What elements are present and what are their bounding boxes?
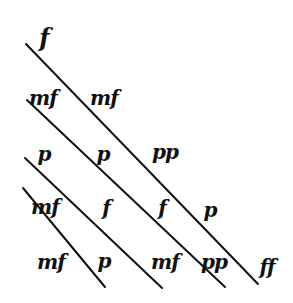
dynamics-diagram: f mf mf p p pp mf f f p mf p mf pp ff bbox=[0, 0, 293, 303]
dynamic-mark-mf: mf bbox=[29, 88, 57, 108]
dynamic-mark-f: f bbox=[102, 198, 110, 218]
dynamic-mark-p: p bbox=[38, 144, 51, 164]
dynamic-mark-ff: ff bbox=[259, 257, 274, 277]
dynamic-mark-f: f bbox=[158, 198, 166, 218]
dynamic-mark-p: p bbox=[97, 144, 110, 164]
dynamic-mark-p: p bbox=[204, 200, 217, 220]
dynamic-mark-f-top: f bbox=[39, 26, 48, 50]
dynamic-mark-p: p bbox=[98, 251, 111, 271]
dynamic-mark-mf: mf bbox=[37, 252, 65, 272]
dynamic-mark-pp: pp bbox=[201, 252, 227, 272]
line-1 bbox=[26, 44, 258, 284]
dynamic-mark-mf: mf bbox=[90, 88, 118, 108]
dynamic-mark-pp: pp bbox=[152, 142, 178, 162]
dynamic-mark-mf: mf bbox=[151, 252, 179, 272]
dynamic-mark-mf: mf bbox=[31, 197, 59, 217]
